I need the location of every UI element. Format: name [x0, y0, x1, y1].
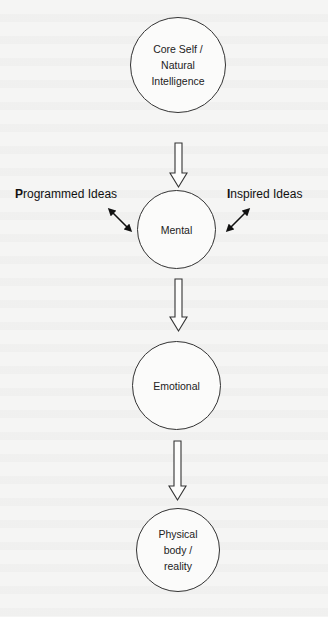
inspired-ideas-label: Inspired Ideas	[227, 187, 302, 201]
programmed-ideas-text: rogrammed Ideas	[23, 187, 117, 201]
node-physical-label: Physical body / reality	[152, 526, 203, 574]
node-physical: Physical body / reality	[136, 508, 220, 592]
node-core-self: Core Self / Natural Intelligence	[130, 17, 226, 113]
inspired-ideas-text: nspired Ideas	[230, 187, 302, 201]
node-emotional: Emotional	[132, 341, 221, 430]
programmed-ideas-initial: P	[15, 187, 23, 201]
node-emotional-label: Emotional	[147, 378, 206, 394]
node-mental: Mental	[137, 190, 216, 269]
arrow-mental-to-emotional	[170, 279, 187, 331]
programmed-ideas-label: Programmed Ideas	[15, 187, 117, 201]
node-mental-label: Mental	[155, 222, 199, 238]
arrow-inspired-ideas	[228, 210, 248, 230]
arrow-emotional-to-physical	[169, 441, 186, 500]
node-core-self-label: Core Self / Natural Intelligence	[145, 41, 210, 89]
arrow-programmed-ideas	[110, 210, 130, 230]
arrow-core-to-mental	[170, 143, 187, 187]
